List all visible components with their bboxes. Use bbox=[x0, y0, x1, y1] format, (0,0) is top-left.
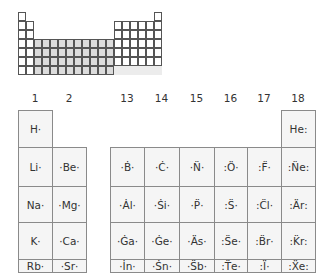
element-cell: ·Äs· bbox=[179, 222, 215, 260]
mini-cell bbox=[98, 57, 106, 66]
mini-cell bbox=[122, 30, 130, 39]
lewis-symbol: ·Ġa· bbox=[117, 235, 138, 247]
mini-cell bbox=[18, 30, 26, 39]
mini-cell bbox=[130, 39, 138, 48]
lewis-symbol: :T̈e· bbox=[221, 260, 241, 272]
lewis-symbol: ·Be· bbox=[59, 161, 79, 173]
mini-cell bbox=[42, 39, 50, 48]
lewis-symbol: :Ö· bbox=[223, 161, 238, 173]
element-cell: :K̈r: bbox=[281, 222, 316, 260]
element-cell: ·Sr· bbox=[52, 259, 87, 273]
mini-cell bbox=[146, 30, 154, 39]
mini-cell bbox=[18, 66, 26, 75]
mini-cell bbox=[138, 39, 146, 48]
mini-cell bbox=[130, 57, 138, 66]
mini-cell bbox=[34, 57, 42, 66]
mini-cell bbox=[114, 39, 122, 48]
mini-cell bbox=[74, 57, 82, 66]
lewis-symbol: Rb· bbox=[27, 260, 44, 272]
group-header-14: 14 bbox=[144, 92, 179, 104]
element-cell: :Ẍe: bbox=[281, 259, 316, 273]
mini-cell bbox=[122, 48, 130, 57]
mini-cell bbox=[18, 48, 26, 57]
element-cell: K· bbox=[18, 222, 53, 260]
mini-cell bbox=[122, 21, 130, 30]
mini-cell bbox=[114, 57, 122, 66]
mini-cell bbox=[34, 48, 42, 57]
mini-cell bbox=[50, 57, 58, 66]
lewis-symbol: ·Ca· bbox=[59, 235, 79, 247]
group-header-2: 2 bbox=[52, 92, 86, 104]
mini-cell bbox=[106, 39, 114, 48]
group-header-17: 17 bbox=[247, 92, 281, 104]
mini-ghost-row bbox=[114, 66, 162, 75]
mini-cell bbox=[138, 57, 146, 66]
lewis-symbol: :Ï· bbox=[260, 260, 270, 272]
mini-cell bbox=[42, 48, 50, 57]
mini-cell bbox=[42, 66, 50, 75]
element-cell: ·Ḃ· bbox=[110, 147, 145, 187]
lewis-symbol: ·Ġe· bbox=[151, 235, 172, 247]
mini-cell bbox=[66, 39, 74, 48]
mini-cell bbox=[74, 48, 82, 57]
mini-cell bbox=[50, 39, 58, 48]
element-cell: :Ï· bbox=[247, 259, 282, 273]
mini-cell bbox=[138, 48, 146, 57]
mini-cell bbox=[66, 48, 74, 57]
mini-cell bbox=[90, 57, 98, 66]
element-cell: ·Ṡi· bbox=[144, 186, 180, 223]
mini-cell bbox=[66, 66, 74, 75]
element-cell: H· bbox=[18, 110, 53, 148]
group-header-1: 1 bbox=[18, 92, 52, 104]
mini-cell bbox=[74, 39, 82, 48]
mini-cell bbox=[146, 48, 154, 57]
mini-cell bbox=[106, 57, 114, 66]
mini-cell bbox=[58, 48, 66, 57]
lewis-symbol: :N̈e: bbox=[288, 161, 309, 173]
mini-cell bbox=[50, 48, 58, 57]
element-cell: ·Ġe· bbox=[144, 222, 180, 260]
mini-cell bbox=[26, 30, 34, 39]
lewis-symbol: :B̈r· bbox=[255, 235, 273, 247]
mini-cell bbox=[74, 66, 82, 75]
element-cell: ·Ṡn· bbox=[144, 259, 180, 273]
mini-cell bbox=[154, 30, 162, 39]
mini-cell bbox=[154, 12, 162, 21]
mini-cell bbox=[154, 57, 162, 66]
element-cell: ·P̈· bbox=[179, 186, 215, 223]
element-cell: ·N̈· bbox=[179, 147, 215, 187]
mini-cell bbox=[98, 66, 106, 75]
mini-cell bbox=[114, 30, 122, 39]
lewis-symbol: ·Ċ· bbox=[155, 161, 169, 173]
mini-cell bbox=[130, 21, 138, 30]
mini-cell bbox=[154, 48, 162, 57]
mini-cell bbox=[82, 48, 90, 57]
lewis-symbol: K· bbox=[30, 235, 40, 247]
mini-cell bbox=[90, 66, 98, 75]
element-cell: :Är: bbox=[281, 186, 316, 223]
element-cell: Li· bbox=[18, 147, 53, 187]
mini-cell bbox=[50, 66, 58, 75]
lewis-symbol: :Ẍe: bbox=[288, 260, 309, 272]
element-cell: ·Be· bbox=[52, 147, 87, 187]
mini-cell bbox=[146, 57, 154, 66]
element-cell: :T̈e· bbox=[214, 259, 248, 273]
mini-cell bbox=[138, 30, 146, 39]
element-cell: ·İn· bbox=[110, 259, 145, 273]
lewis-symbol: ·S̈b· bbox=[187, 260, 207, 272]
lewis-symbol: ·Ṡi· bbox=[154, 199, 170, 211]
mini-cell bbox=[34, 39, 42, 48]
mini-cell bbox=[138, 21, 146, 30]
mini-cell bbox=[122, 39, 130, 48]
mini-cell bbox=[18, 21, 26, 30]
mini-cell bbox=[26, 39, 34, 48]
mini-cell bbox=[98, 48, 106, 57]
mini-cell bbox=[154, 39, 162, 48]
mini-cell bbox=[146, 39, 154, 48]
group-header-15: 15 bbox=[179, 92, 214, 104]
element-cell: :S̈e· bbox=[214, 222, 248, 260]
mini-cell bbox=[26, 57, 34, 66]
mini-cell bbox=[34, 66, 42, 75]
lewis-symbol: :K̈r: bbox=[289, 235, 307, 247]
mini-cell bbox=[98, 39, 106, 48]
